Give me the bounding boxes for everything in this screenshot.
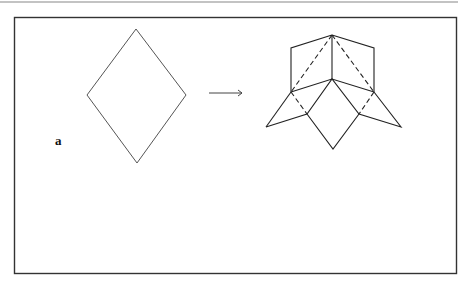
panel-label: a xyxy=(55,133,62,149)
tall-rhombus xyxy=(87,29,186,163)
folded-net-top xyxy=(266,35,401,149)
diagram-canvas xyxy=(0,0,469,289)
figure-frame xyxy=(15,18,457,274)
arrow-top xyxy=(209,90,242,96)
